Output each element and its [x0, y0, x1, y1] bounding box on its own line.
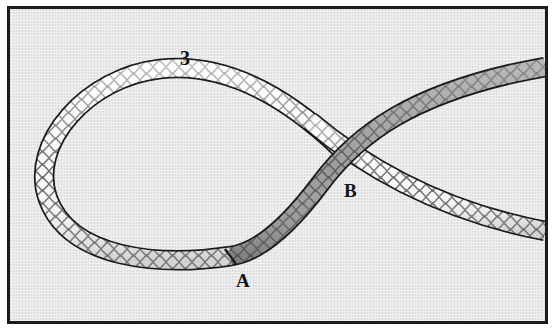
- light-rope-loop: [44, 68, 340, 260]
- point-b-label: B: [344, 181, 357, 200]
- point-a-label: A: [236, 271, 250, 290]
- rope-illustration: [10, 9, 545, 321]
- step-number-label: 3: [180, 48, 190, 68]
- light-rope-tail: [310, 121, 545, 231]
- diagram-canvas: [10, 9, 545, 321]
- knot-diagram-figure: 3 A B: [0, 0, 555, 334]
- diagram-frame: 3 A B: [7, 6, 548, 324]
